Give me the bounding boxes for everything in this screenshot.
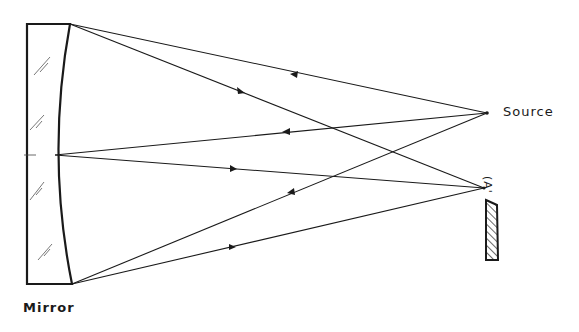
- image-label: (A': [481, 176, 494, 194]
- mirror-label: Mirror: [23, 300, 75, 315]
- hatched-screen: [486, 200, 498, 260]
- arrowheads: [229, 71, 298, 250]
- rays: [55, 24, 487, 284]
- source-point: [485, 111, 489, 115]
- ray-diagram: [0, 0, 579, 332]
- source-label: Source: [503, 104, 554, 119]
